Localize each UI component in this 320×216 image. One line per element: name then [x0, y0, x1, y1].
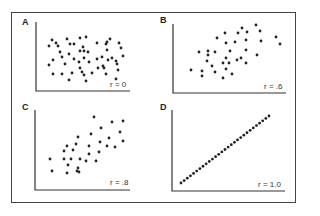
data-point [122, 140, 125, 143]
data-point [64, 63, 67, 66]
data-point [106, 41, 109, 44]
data-point [79, 37, 82, 40]
axes [172, 110, 285, 191]
data-point [189, 174, 192, 177]
data-point [268, 115, 271, 118]
r-annotation-a: r = 0 [110, 80, 126, 89]
data-point [245, 49, 248, 52]
data-point [249, 129, 252, 132]
data-point [240, 57, 243, 60]
data-point [77, 167, 80, 170]
data-point [117, 69, 120, 72]
panel-label-d: D [160, 102, 167, 112]
data-point [66, 172, 69, 175]
data-point [116, 63, 119, 66]
data-point [79, 158, 82, 161]
data-point [66, 38, 69, 41]
data-point [101, 56, 104, 59]
data-point [91, 72, 94, 75]
data-point [216, 37, 219, 40]
data-point [275, 36, 278, 39]
data-point [108, 137, 111, 140]
data-point [211, 158, 214, 161]
data-point [98, 151, 101, 154]
data-point [220, 150, 223, 153]
data-point [242, 134, 245, 137]
data-point [208, 160, 211, 163]
data-point [57, 45, 60, 48]
data-point [224, 148, 227, 151]
data-point [115, 60, 118, 63]
panel-label-b: B [160, 15, 167, 25]
data-point [230, 143, 233, 146]
data-point [202, 165, 205, 168]
data-point [63, 150, 66, 153]
data-point [236, 139, 239, 142]
data-point [122, 120, 125, 123]
data-point [83, 57, 86, 60]
data-point [107, 59, 110, 62]
data-point [99, 141, 102, 144]
data-point [279, 43, 282, 46]
data-point [82, 46, 85, 49]
data-point [207, 54, 210, 57]
data-point [214, 51, 217, 54]
data-point [70, 158, 73, 161]
panel-label-c: C [22, 102, 29, 112]
data-point [259, 30, 262, 33]
data-point [214, 155, 217, 158]
data-point [96, 42, 99, 45]
data-point [83, 50, 86, 53]
data-point [52, 73, 55, 76]
data-point [214, 71, 217, 74]
data-point [222, 77, 225, 80]
data-point [111, 57, 114, 60]
data-point [192, 172, 195, 175]
data-point [85, 36, 88, 39]
data-point [88, 153, 91, 156]
data-point [236, 59, 239, 62]
data-point [119, 131, 122, 134]
data-point [264, 117, 267, 120]
data-point [90, 133, 93, 136]
data-point [241, 27, 244, 30]
data-point [211, 65, 214, 68]
data-point [205, 162, 208, 165]
data-point [79, 67, 82, 70]
data-point [255, 124, 258, 127]
data-point [93, 116, 96, 119]
data-point [83, 74, 86, 77]
data-point [48, 64, 51, 67]
data-point [88, 61, 91, 64]
data-point [85, 80, 88, 83]
data-point [69, 43, 72, 46]
data-point [234, 41, 237, 44]
data-point [120, 47, 123, 50]
data-point [228, 62, 231, 65]
data-point [261, 119, 264, 122]
data-point [224, 32, 227, 35]
data-point [72, 149, 75, 152]
data-point [100, 127, 103, 130]
data-point [233, 141, 236, 144]
data-point [105, 73, 108, 76]
data-point [85, 160, 88, 163]
data-point [96, 58, 99, 61]
data-point [68, 79, 71, 82]
data-point [78, 61, 81, 64]
data-point [79, 50, 82, 53]
r-annotation-d: r = 1.0 [258, 180, 281, 189]
data-point [201, 75, 204, 78]
data-point [198, 51, 201, 54]
data-point [225, 57, 228, 60]
data-point [111, 121, 114, 124]
data-point [61, 56, 64, 59]
data-point [246, 131, 249, 134]
data-point [207, 50, 210, 53]
data-point [52, 59, 55, 62]
data-point [239, 136, 242, 139]
data-point [97, 67, 100, 70]
data-point [95, 160, 98, 163]
data-point [106, 49, 109, 52]
panel-label-a: A [22, 17, 29, 27]
